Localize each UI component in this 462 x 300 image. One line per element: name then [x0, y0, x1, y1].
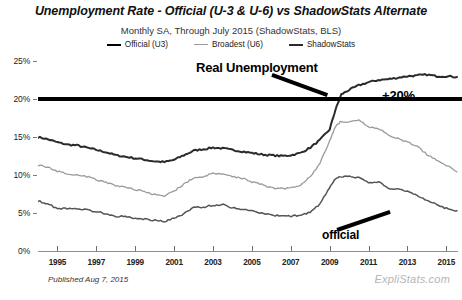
chart-container: Unemployment Rate - Official (U-3 & U-6)…	[0, 0, 462, 300]
x-axis-label-2005: 2005	[243, 258, 260, 267]
x-axis-label-1995: 1995	[49, 258, 66, 267]
watermark: ExpliStats.com	[374, 273, 450, 285]
x-axis-label-2009: 2009	[321, 258, 338, 267]
x-axis-label-2007: 2007	[282, 258, 299, 267]
annotation-real-unemployment: Real Unemployment	[196, 60, 318, 75]
x-axis-label-2003: 2003	[204, 258, 221, 267]
x-axis-label-1997: 1997	[88, 258, 105, 267]
published-date: Published Aug 7, 2015	[48, 275, 128, 284]
series-line-official-u3	[38, 176, 457, 222]
plot-area	[38, 55, 458, 251]
series-svg	[38, 55, 458, 251]
annotation-plus-20-percent: +20%	[382, 88, 415, 103]
series-line-broadest-u6	[38, 120, 457, 197]
x-axis-label-2011: 2011	[360, 258, 377, 267]
x-axis-label-2013: 2013	[399, 258, 416, 267]
x-axis-label-2001: 2001	[165, 258, 182, 267]
x-axis-label-1999: 1999	[127, 258, 144, 267]
x-axis-label-2015: 2015	[438, 258, 455, 267]
x-axis-line	[38, 251, 458, 252]
